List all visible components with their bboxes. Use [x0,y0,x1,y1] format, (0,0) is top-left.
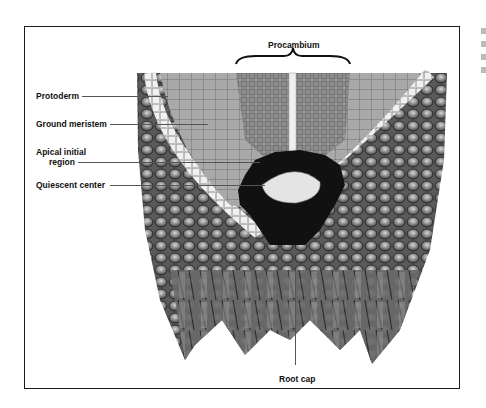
label-root-cap: Root cap [279,374,315,384]
label-procambium: Procambium [268,40,320,50]
leader-protoderm [82,96,168,97]
leader-root-cap [295,270,296,365]
label-apical-initial-line1: Apical initial [36,147,86,157]
label-apical-initial-line2: region [49,157,75,167]
label-quiescent-center: Quiescent center [36,180,105,190]
leader-apical-initial [78,162,260,163]
root-apex-diagram [0,0,486,408]
clipped-caption-fragment [481,67,486,73]
leader-quiescent-center [110,185,265,186]
label-ground-meristem: Ground meristem [36,119,107,129]
leader-ground-meristem [110,124,208,125]
clipped-caption-fragment [481,41,486,47]
clipped-caption-fragment [481,28,486,34]
label-protoderm: Protoderm [36,91,79,101]
clipped-caption-fragment [481,54,486,60]
